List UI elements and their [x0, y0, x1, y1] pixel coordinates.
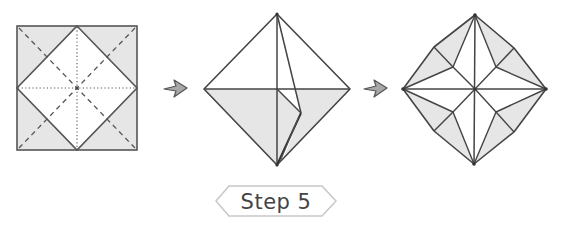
origami-diagram: Step 5: [0, 0, 566, 229]
arrow-2-icon: [364, 80, 387, 97]
panel-2-diamond-diagram: [204, 12, 350, 166]
center-dot: [75, 86, 78, 89]
panel-1-square-diagram: [17, 26, 137, 150]
arrow-1-icon: [164, 80, 187, 97]
step-label-text: Step 5: [241, 190, 312, 214]
panel-3-result-diagram: [401, 13, 548, 166]
step-label-badge: Step 5: [216, 186, 336, 216]
